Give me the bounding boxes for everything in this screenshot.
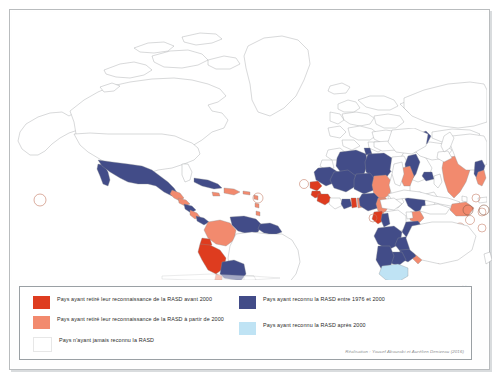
map-credit: Réalisation : Youcef Abourabi et Aurélie… [345,349,464,354]
legend-swatch-recognised-1976-2000 [239,296,256,309]
legend-item-recognised-1976-2000[interactable]: Pays ayant reconnu la RASD entre 1976 et… [239,296,473,309]
legend-swatch-never-recognised [33,337,52,352]
legend-swatch-withdrew-before-2000 [33,296,50,309]
legend-swatch-withdrew-from-2000 [33,316,50,329]
legend-label-never-recognised: Pays n'ayant jamais reconnu la RASD [59,337,154,345]
legend-column-left: Pays ayant retiré leur reconnaissance de… [20,287,235,352]
map-legend: Pays ayant retiré leur reconnaissance de… [19,286,472,360]
legend-label-recognised-1976-2000: Pays ayant reconnu la RASD entre 1976 et… [263,296,385,304]
legend-label-recognised-after-2000: Pays ayant reconnu la RASD après 2000 [263,322,366,330]
legend-item-withdrew-from-2000[interactable]: Pays ayant retiré leur reconnaissance de… [33,316,235,329]
legend-item-never-recognised[interactable]: Pays n'ayant jamais reconnu la RASD [33,337,235,352]
pacific-island-ring-left [28,188,52,212]
far-east-oceania-overlay [352,128,492,268]
legend-label-withdrew-before-2000: Pays ayant retiré leur reconnaissance de… [57,296,212,304]
legend-column-right: Pays ayant reconnu la RASD entre 1976 et… [235,287,473,335]
legend-item-recognised-after-2000[interactable]: Pays ayant reconnu la RASD après 2000 [239,322,473,335]
legend-item-withdrew-before-2000[interactable]: Pays ayant retiré leur reconnaissance de… [33,296,235,309]
legend-swatch-recognised-after-2000 [239,322,256,335]
legend-label-withdrew-from-2000: Pays ayant retiré leur reconnaissance de… [57,316,224,324]
